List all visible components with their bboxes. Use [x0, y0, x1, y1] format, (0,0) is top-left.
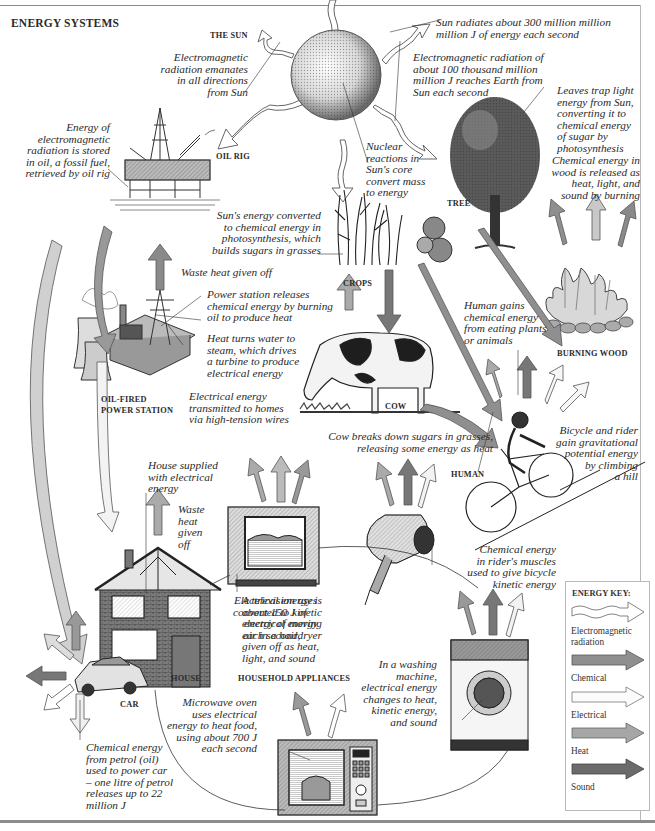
label-car: CAR	[120, 700, 139, 709]
label-tree: TREE	[447, 199, 470, 208]
television-illustration	[228, 507, 319, 586]
label-crops: CROPS	[343, 279, 372, 288]
key-label-chemical: Chemical	[571, 673, 607, 684]
electromagnetic-radiation-key-arrow-icon	[570, 601, 646, 623]
caption-sun-emanates: Electromagneticradiation emanatesin all …	[160, 52, 248, 98]
energy-systems-diagram: ENERGY SYSTEMS THE SUN OIL RIG TREE CROP…	[0, 0, 655, 831]
key-label-electromagnetic: Electromagneticradiation	[571, 626, 632, 647]
caption-hairdryer: Electrical energy isconverted to kinetic…	[233, 595, 322, 641]
label-house: HOUSE	[171, 674, 201, 683]
caption-washing-machine: In a washingmachine,electrical energycha…	[361, 659, 437, 729]
flowers-illustration	[417, 217, 452, 262]
label-power-station-line2: POWER STATION	[101, 406, 173, 415]
caption-waste-heat-house: Wasteheatgivenoff	[178, 504, 205, 550]
caption-reaches-earth: Electromagnetic radiation ofabout 100 th…	[413, 52, 544, 98]
caption-wood-released: Chemical energy inwood is released ashea…	[552, 155, 640, 201]
label-household-appliances: HOUSEHOLD APPLIANCES	[238, 674, 350, 683]
hairdryer-illustration	[365, 515, 434, 605]
burning-wood-illustration	[545, 268, 633, 333]
tree-illustration	[450, 97, 540, 248]
crops-illustration	[335, 190, 402, 265]
diagram-title: ENERGY SYSTEMS	[11, 17, 119, 29]
caption-oil-stored: Energy ofelectromagneticradiation is sto…	[25, 122, 110, 180]
label-the-sun: THE SUN	[210, 31, 248, 40]
key-label-electrical: Electrical	[571, 710, 607, 721]
electrical-key-arrow-icon	[570, 686, 646, 708]
label-oil-rig: OIL RIG	[216, 152, 250, 161]
key-label-heat: Heat	[571, 746, 589, 757]
caption-leaves: Leaves trap lightenergy from Sun,convert…	[557, 85, 634, 155]
caption-nuclear: Nuclearreactions inSun's coreconvert mas…	[366, 141, 425, 199]
energy-key-legend: ENERGY KEY: Electromagneticradiation Che…	[565, 581, 650, 811]
heat-key-arrow-icon	[570, 722, 646, 744]
caption-power-releases: Power station releaseschemical energy by…	[207, 289, 333, 324]
chemical-key-arrow-icon	[570, 649, 646, 671]
label-power-station-line1: OIL-FIRED	[101, 395, 147, 404]
caption-steam-turbine: Heat turns water tosteam, which drivesa …	[207, 333, 299, 379]
energy-key-title: ENERGY KEY:	[572, 588, 631, 598]
caption-sun-radiates: Sun radiates about 300 million millionmi…	[436, 17, 611, 40]
caption-house-supplied: House suppliedwith electricalenergy	[148, 460, 218, 495]
caption-cow-breaks: Cow breaks down sugars in grasses,releas…	[328, 431, 493, 454]
label-cow: COW	[385, 402, 406, 411]
oil-rig-illustration	[110, 108, 220, 210]
label-human: HUMAN	[451, 470, 484, 479]
caption-bicycle-potential: Bicycle and ridergain gravitationalpoten…	[556, 425, 638, 483]
power-station-illustration	[74, 289, 195, 380]
caption-microwave: Microwave ovenuses electricalenergy to h…	[167, 697, 257, 755]
key-label-sound: Sound	[571, 782, 595, 793]
cow-illustration	[300, 333, 460, 414]
caption-human-gains: Human gainschemical energyfrom eating pl…	[464, 300, 546, 346]
caption-transmitted: Electrical energytransmitted to homesvia…	[189, 391, 289, 426]
sound-key-arrow-icon	[570, 758, 646, 780]
washing-machine-illustration	[451, 640, 528, 750]
caption-waste-heat-station: Waste heat given off	[181, 267, 272, 279]
caption-rider-muscles: Chemical energyin rider's musclesused to…	[467, 544, 556, 590]
label-burning-wood: BURNING WOOD	[557, 349, 628, 358]
microwave-illustration	[278, 740, 377, 815]
caption-photosynthesis: Sun's energy convertedto chemical energy…	[212, 210, 321, 256]
caption-car-petrol: Chemical energyfrom petrol (oil)used to …	[86, 742, 173, 812]
